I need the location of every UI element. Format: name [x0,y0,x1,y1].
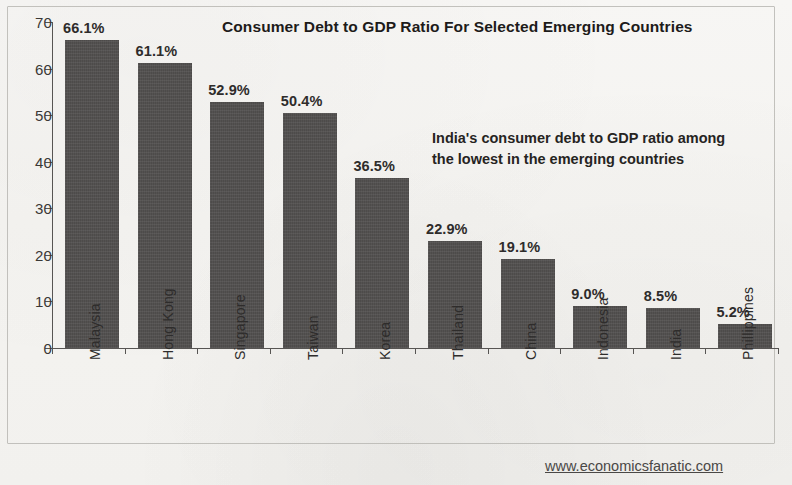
x-axis-category-label: Hong Kong [160,288,176,360]
x-axis-category-label: Taiwan [305,315,321,360]
x-axis-tick-mark [488,348,489,354]
bar[interactable] [283,113,337,348]
x-axis-category-label: Singapore [232,294,248,360]
x-axis-tick-mark [52,348,53,354]
x-axis-tick-mark [125,348,126,354]
bar[interactable] [65,40,119,348]
bar-value-label: 66.1% [63,20,105,36]
y-axis-tick-label: 60 [22,60,52,77]
y-axis-tick-label: 50 [22,107,52,124]
y-axis-line [52,22,53,349]
x-axis-category-label: China [523,322,539,360]
annotation-line-1: India's consumer debt to GDP ratio among [432,128,762,149]
bar-value-label: 19.1% [499,239,541,255]
x-axis-category-label: Malaysia [87,303,103,360]
bar-value-label: 22.9% [426,221,468,237]
x-axis-category-label: India [668,329,684,360]
x-axis-tick-mark [342,348,343,354]
x-axis-tick-mark [633,348,634,354]
y-axis-tick-label: 70 [22,14,52,31]
chart-title: Consumer Debt to GDP Ratio For Selected … [222,18,693,36]
y-axis-tick-label: 40 [22,153,52,170]
x-axis-category-label: Thailand [450,305,466,360]
x-axis-category-label: Korea [377,322,393,360]
x-axis-tick-mark [705,348,706,354]
annotation-line-2: the lowest in the emerging countries [432,149,762,170]
bar-value-label: 36.5% [353,158,395,174]
x-axis-tick-mark [778,348,779,354]
chart-annotation: India's consumer debt to GDP ratio among… [432,128,762,170]
x-axis-category-label: Indonesia [595,297,611,360]
y-axis-tick-label: 10 [22,293,52,310]
bar-chart: Consumer Debt to GDP Ratio For Selected … [0,0,792,485]
bar-value-label: 52.9% [208,82,250,98]
y-axis-tick-label: 0 [22,340,52,357]
x-axis-tick-mark [415,348,416,354]
bar-value-label: 50.4% [281,93,323,109]
x-axis-category-label: Phillippines [740,287,756,360]
x-axis-tick-mark [197,348,198,354]
y-axis-tick-label: 20 [22,246,52,263]
x-axis-tick-mark [560,348,561,354]
x-axis-tick-mark [270,348,271,354]
bar-value-label: 61.1% [136,43,178,59]
bar-value-label: 8.5% [644,288,677,304]
source-url-link[interactable]: www.economicsfanatic.com [545,458,723,474]
y-axis-tick-label: 30 [22,200,52,217]
